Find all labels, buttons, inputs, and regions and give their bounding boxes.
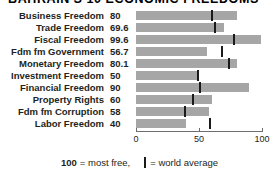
axis-tick-label: 0 [133, 134, 138, 144]
world-average-tick [228, 58, 230, 69]
row-label: Labor Freedom [0, 118, 104, 130]
score-bar [136, 23, 224, 32]
score-bar [136, 119, 186, 128]
row-label: Business Freedom [0, 10, 104, 22]
bar-track [136, 70, 262, 82]
row-label: Fdm fm Corruption [0, 106, 104, 118]
bar-track [136, 94, 262, 106]
row-value: 40 [110, 118, 134, 130]
bar-track [136, 34, 262, 46]
score-bar [136, 35, 261, 44]
legend-scale-number: 100 [61, 157, 77, 168]
row-value: 60 [110, 94, 134, 106]
world-average-marker-icon [144, 157, 146, 168]
world-average-tick [209, 118, 211, 129]
row-label: Property Rights [0, 94, 104, 106]
row-value: 90 [110, 82, 134, 94]
score-bar [136, 83, 249, 92]
bar-track [136, 46, 262, 58]
row-value: 56.7 [110, 46, 134, 58]
legend-average: = world average [144, 157, 218, 168]
world-average-tick [184, 106, 186, 117]
chart-row: Monetary Freedom80.1 [0, 58, 279, 70]
score-bar [136, 11, 237, 20]
chart-title-clipped: BAHRAIN'S 10 ECONOMIC FREEDOMS [0, 0, 279, 7]
row-label: Fiscal Freedom [0, 34, 104, 46]
x-axis: 050100 [136, 131, 262, 149]
world-average-tick [233, 34, 235, 45]
row-label: Financial Freedom [0, 82, 104, 94]
bar-track [136, 58, 262, 70]
row-label: Trade Freedom [0, 22, 104, 34]
chart-row: Fdm fm Corruption58 [0, 106, 279, 118]
axis-tickmark [136, 128, 137, 132]
score-bar [136, 47, 207, 56]
score-bar [136, 71, 199, 80]
chart-row: Fiscal Freedom99.6 [0, 34, 279, 46]
chart-legend: 100 = most free, = world average [0, 152, 279, 172]
legend-scale: 100 = most free, [61, 157, 130, 168]
row-label: Monetary Freedom [0, 58, 104, 70]
chart-row: Fdm fm Government56.7 [0, 46, 279, 58]
world-average-tick [197, 70, 199, 81]
score-bar [136, 95, 212, 104]
bar-track [136, 82, 262, 94]
row-value: 99.6 [110, 34, 134, 46]
row-value: 80 [110, 10, 134, 22]
chart-row: Property Rights60 [0, 94, 279, 106]
world-average-tick [211, 10, 213, 21]
row-label: Fdm fm Government [0, 46, 104, 58]
row-value: 69.6 [110, 22, 134, 34]
axis-tickmark [262, 128, 263, 132]
bar-track [136, 10, 262, 22]
score-bar [136, 107, 209, 116]
world-average-tick [199, 82, 201, 93]
row-label: Investment Freedom [0, 70, 104, 82]
bar-track [136, 106, 262, 118]
chart-rows: Business Freedom80Trade Freedom69.6Fisca… [0, 10, 279, 130]
legend-scale-text: = most free, [80, 157, 130, 168]
world-average-tick [214, 22, 216, 33]
chart-figure: BAHRAIN'S 10 ECONOMIC FREEDOMS Business … [0, 0, 279, 176]
score-bar [136, 59, 237, 68]
axis-tick-label: 50 [194, 134, 204, 144]
world-average-tick [221, 46, 223, 57]
axis-tick-label: 100 [254, 134, 269, 144]
axis-tickmark [199, 128, 200, 132]
world-average-tick [192, 94, 194, 105]
chart-row: Trade Freedom69.6 [0, 22, 279, 34]
chart-row: Financial Freedom90 [0, 82, 279, 94]
row-value: 58 [110, 106, 134, 118]
legend-average-text: = world average [150, 157, 218, 168]
row-value: 50 [110, 70, 134, 82]
chart-row: Business Freedom80 [0, 10, 279, 22]
row-value: 80.1 [110, 58, 134, 70]
bar-track [136, 22, 262, 34]
chart-title: BAHRAIN'S 10 ECONOMIC FREEDOMS [8, 0, 259, 6]
chart-row: Labor Freedom40 [0, 118, 279, 130]
chart-row: Investment Freedom50 [0, 70, 279, 82]
